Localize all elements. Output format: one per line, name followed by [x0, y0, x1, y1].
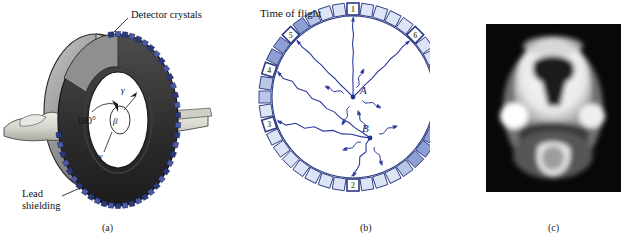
pet-brain-scan-image	[486, 24, 621, 192]
angle-180-label: 180°	[77, 115, 96, 126]
svg-text:3: 3	[267, 120, 271, 129]
panel-c-pet-scan	[486, 24, 621, 192]
panel-c-caption: (c)	[548, 222, 559, 233]
annihilation-point-a	[351, 95, 356, 100]
detector-ring-diagram: A B 162345	[215, 0, 430, 241]
panel-b-time-of-flight: Time of flight A B 162345 (b)	[215, 0, 430, 241]
gamma-upper-label: γ	[121, 85, 125, 95]
beta-label: β	[112, 116, 118, 126]
lead-shielding-label-line2: shielding	[22, 200, 61, 212]
annihilation-point-b	[368, 136, 373, 141]
panel-a-caption: (a)	[102, 222, 113, 233]
panel-b-caption: (b)	[360, 222, 372, 233]
time-of-flight-title: Time of flight	[260, 7, 321, 19]
detector-ring-crystals	[259, 3, 430, 191]
svg-text:2: 2	[351, 181, 355, 190]
lead-shielding-leader	[62, 188, 80, 196]
pet-scanner-figure: β γ γ 180° Detector crystals Lead shield…	[0, 0, 639, 241]
svg-text:5: 5	[289, 31, 293, 40]
point-b-label: B	[362, 122, 369, 134]
gamma-lower-label: γ	[99, 151, 103, 161]
panel-a-scanner-diagram: β γ γ 180° Detector crystals Lead shield…	[0, 0, 213, 241]
svg-text:1: 1	[351, 5, 355, 14]
svg-text:4: 4	[267, 66, 271, 75]
svg-text:6: 6	[413, 31, 417, 40]
lead-shielding-label-line1: Lead	[22, 188, 43, 200]
point-a-label: A	[359, 84, 367, 96]
detector-crystals-label: Detector crystals	[131, 9, 202, 21]
